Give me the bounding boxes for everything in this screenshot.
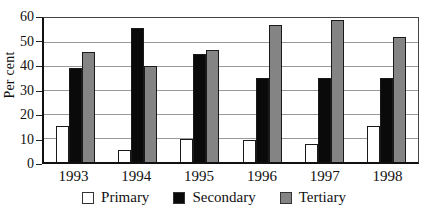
y-tick-label-10: 10 [4, 132, 34, 148]
legend-item-tertiary: Tertiary [280, 189, 346, 206]
y-tick-label-20: 20 [4, 107, 34, 123]
legend-item-secondary: Secondary [173, 189, 255, 206]
bar-chart-figure: Per cent 0102030405060 19931994199519961… [0, 0, 428, 214]
bar-primary-1995 [180, 139, 193, 162]
x-axis-label-1996: 1996 [230, 168, 293, 185]
x-axis-label-1998: 1998 [356, 168, 419, 185]
y-tick-label-60: 60 [4, 9, 34, 25]
bar-group-1998 [367, 18, 406, 162]
bar-secondary-1994 [131, 28, 144, 162]
y-tick-mark-40 [36, 66, 42, 67]
bar-primary-1996 [243, 140, 256, 162]
bar-tertiary-1997 [331, 20, 344, 162]
x-axis-label-1997: 1997 [293, 168, 356, 185]
y-tick-mark-60 [36, 17, 42, 18]
legend-label-primary: Primary [101, 189, 149, 206]
bar-primary-1997 [305, 144, 318, 162]
bar-group-1996 [243, 18, 282, 162]
bar-group-1997 [305, 18, 344, 162]
bar-group-1994 [118, 18, 157, 162]
x-axis-label-1993: 1993 [42, 168, 105, 185]
bar-tertiary-1995 [206, 50, 219, 162]
y-tick-mark-20 [36, 115, 42, 116]
bar-tertiary-1998 [393, 37, 406, 162]
bar-tertiary-1994 [144, 66, 157, 162]
legend-item-primary: Primary [82, 189, 149, 206]
bar-tertiary-1993 [82, 52, 95, 162]
bar-secondary-1995 [193, 54, 206, 162]
y-tick-label-0: 0 [4, 156, 34, 172]
y-tick-label-40: 40 [4, 58, 34, 74]
y-tick-mark-0 [36, 164, 42, 165]
legend-swatch-primary [82, 192, 94, 204]
legend-swatch-tertiary [280, 192, 292, 204]
bar-group-1995 [180, 18, 219, 162]
bar-primary-1993 [56, 126, 69, 162]
bar-tertiary-1996 [269, 25, 282, 162]
bar-group-1993 [56, 18, 95, 162]
bar-secondary-1996 [256, 78, 269, 162]
bar-primary-1998 [367, 126, 380, 162]
bar-secondary-1993 [69, 68, 82, 162]
legend-swatch-secondary [173, 192, 185, 204]
y-tick-mark-10 [36, 140, 42, 141]
x-axis-labels: 199319941995199619971998 [42, 168, 419, 185]
bars-container [44, 18, 418, 162]
bar-secondary-1998 [380, 78, 393, 162]
legend-label-tertiary: Tertiary [299, 189, 346, 206]
y-tick-mark-30 [36, 91, 42, 92]
x-axis-label-1994: 1994 [105, 168, 168, 185]
y-tick-label-50: 50 [4, 34, 34, 50]
y-tick-mark-50 [36, 41, 42, 42]
legend-label-secondary: Secondary [192, 189, 255, 206]
y-tick-label-30: 30 [4, 83, 34, 99]
bar-secondary-1997 [318, 78, 331, 162]
chart-legend: PrimarySecondaryTertiary [0, 189, 428, 206]
bar-primary-1994 [118, 150, 131, 162]
plot-area [42, 17, 419, 164]
x-axis-label-1995: 1995 [168, 168, 231, 185]
